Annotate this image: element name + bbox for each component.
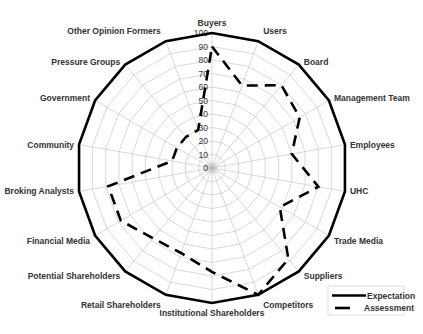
category-label-buyers: Buyers <box>198 18 227 28</box>
category-label-competitors: Competitors <box>263 300 313 310</box>
radial-axis-ticks: 0102030405060708090100 <box>194 28 208 173</box>
radial-tick-label: 10 <box>199 150 209 160</box>
category-label-management-team: Management Team <box>334 93 410 103</box>
grid-spoke <box>212 41 258 168</box>
category-label-financial-media: Financial Media <box>27 236 91 246</box>
radial-tick-label: 0 <box>203 163 208 173</box>
grid-spoke <box>212 168 258 295</box>
category-label-uhc: UHC <box>350 186 368 196</box>
radar-chart: 0102030405060708090100 BuyersUsersBoardM… <box>0 0 423 334</box>
category-label-board: Board <box>304 57 329 67</box>
category-label-users: Users <box>263 26 287 36</box>
category-label-government: Government <box>40 93 90 103</box>
legend-expectation-label: Expectation <box>367 291 415 301</box>
category-label-broking-analysts: Broking Analysts <box>4 186 74 196</box>
category-label-community: Community <box>27 140 74 150</box>
category-label-potential-shareholders: Potential Shareholders <box>28 271 121 281</box>
category-label-other-opinion-formers: Other Opinion Formers <box>67 26 161 36</box>
category-label-suppliers: Suppliers <box>304 271 343 281</box>
radial-tick-label: 80 <box>199 55 209 65</box>
legend: Expectation Assessment <box>328 286 415 315</box>
radial-tick-label: 20 <box>199 136 209 146</box>
legend-assessment-label: Assessment <box>364 303 414 313</box>
category-label-pressure-groups: Pressure Groups <box>51 57 120 67</box>
radial-tick-label: 90 <box>199 42 209 52</box>
category-label-trade-media: Trade Media <box>334 236 383 246</box>
category-label-institutional-shareholders: Institutional Shareholders <box>160 308 265 318</box>
category-label-employees: Employees <box>350 140 395 150</box>
category-label-retail-shareholders: Retail Shareholders <box>81 300 161 310</box>
grid-spoke <box>166 168 212 295</box>
